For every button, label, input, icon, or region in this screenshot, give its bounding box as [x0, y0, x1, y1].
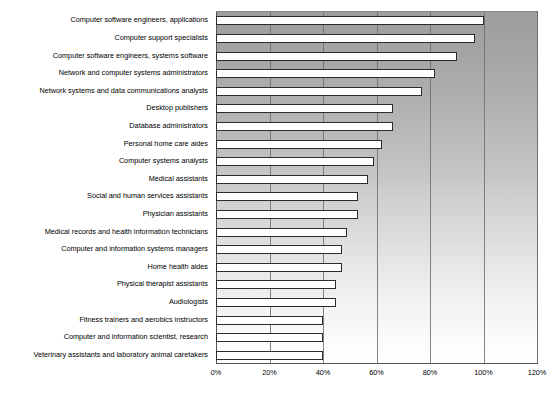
- category-label: Home health aides: [0, 262, 208, 271]
- x-tick-label: 20%: [262, 368, 277, 378]
- category-label: Physician assistants: [0, 209, 208, 218]
- horizontal-bar-chart: Computer software engineers, application…: [0, 0, 560, 419]
- x-tick-label: 80%: [423, 368, 438, 378]
- bar: [216, 245, 342, 254]
- bar: [216, 263, 342, 272]
- x-axis-line: [216, 363, 538, 364]
- x-tick-label: 60%: [369, 368, 384, 378]
- bar: [216, 192, 358, 201]
- bar: [216, 122, 393, 131]
- bar: [216, 157, 374, 166]
- category-label: Computer software engineers, systems sof…: [0, 51, 208, 60]
- category-label: Network systems and data communications …: [0, 86, 208, 95]
- bar: [216, 298, 336, 307]
- bar: [216, 87, 422, 96]
- bars-layer: [216, 12, 537, 364]
- bar: [216, 280, 336, 289]
- category-label: Social and human services assistants: [0, 191, 208, 200]
- bar: [216, 316, 323, 325]
- category-label: Audiologists: [0, 297, 208, 306]
- category-label: Fitness trainers and aerobics instructor…: [0, 315, 208, 324]
- bar: [216, 140, 382, 149]
- bar: [216, 210, 358, 219]
- category-label: Personal home care aides: [0, 139, 208, 148]
- bar: [216, 34, 475, 43]
- category-label: Desktop publishers: [0, 103, 208, 112]
- plot-area: [216, 11, 537, 364]
- category-label: Database administrators: [0, 121, 208, 130]
- x-tick-label: 40%: [316, 368, 331, 378]
- category-label: Veterinary assistants and laboratory ani…: [0, 350, 208, 359]
- bar: [216, 16, 484, 25]
- bar: [216, 333, 323, 342]
- category-label: Physical therapist assistants: [0, 279, 208, 288]
- x-tick-label: 0%: [211, 368, 222, 378]
- category-label: Medical records and health information t…: [0, 227, 208, 236]
- x-tick-label: 120%: [528, 368, 547, 378]
- bar: [216, 351, 323, 360]
- bar: [216, 52, 457, 61]
- category-label: Computer and information scientist, rese…: [0, 332, 208, 341]
- category-label: Computer software engineers, application…: [0, 15, 208, 24]
- plot-right-border: [537, 11, 538, 364]
- bar: [216, 228, 347, 237]
- category-label: Medical assistants: [0, 174, 208, 183]
- x-axis-tick-labels: 0%20%40%60%80%100%120%: [0, 368, 560, 382]
- bar: [216, 104, 393, 113]
- category-axis: Computer software engineers, application…: [0, 11, 212, 363]
- category-label: Network and computer systems administrat…: [0, 68, 208, 77]
- category-label: Computer support specialists: [0, 33, 208, 42]
- bar: [216, 175, 368, 184]
- category-label: Computer systems analysts: [0, 156, 208, 165]
- x-tick-label: 100%: [474, 368, 493, 378]
- category-label: Computer and information systems manager…: [0, 244, 208, 253]
- bar: [216, 69, 435, 78]
